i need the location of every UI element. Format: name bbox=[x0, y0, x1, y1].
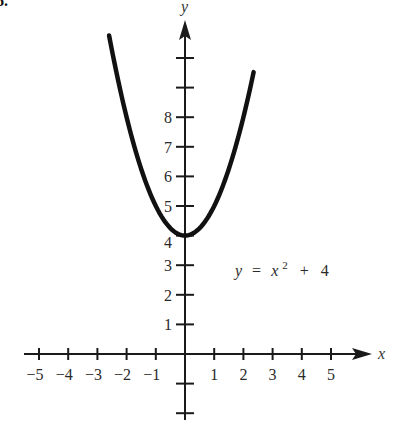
x-tick-label: 5 bbox=[327, 366, 335, 383]
x-tick-label: 3 bbox=[269, 366, 277, 383]
y-tick-label: 7 bbox=[164, 139, 172, 156]
x-tick-label: −4 bbox=[56, 366, 73, 383]
y-tick-label: 4 bbox=[164, 234, 172, 251]
y-tick-label: 8 bbox=[164, 109, 172, 126]
y-tick-label: 1 bbox=[164, 316, 172, 333]
x-tick-label: 2 bbox=[239, 366, 247, 383]
x-tick-label: −5 bbox=[26, 366, 43, 383]
y-tick-label: 2 bbox=[164, 287, 172, 304]
axes bbox=[24, 20, 372, 420]
parabola-chart: 6. −5−4−3−2−112345 12345678 x y y = x 2 … bbox=[0, 0, 408, 431]
equation-label: y = x 2 + 4 bbox=[233, 255, 329, 280]
x-tick-label: 4 bbox=[298, 366, 306, 383]
y-tick-label: 3 bbox=[164, 257, 172, 274]
x-tick-label: −3 bbox=[85, 366, 102, 383]
problem-number: 6. bbox=[0, 0, 8, 9]
x-axis-label: x bbox=[377, 345, 385, 362]
x-tick-label: 1 bbox=[210, 366, 218, 383]
y-tick-label: 6 bbox=[164, 168, 172, 185]
x-tick-label: −2 bbox=[114, 366, 131, 383]
y-tick-label: 5 bbox=[164, 198, 172, 215]
y-axis-label: y bbox=[179, 0, 189, 16]
x-tick-label: −1 bbox=[143, 366, 160, 383]
